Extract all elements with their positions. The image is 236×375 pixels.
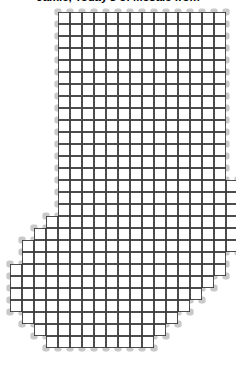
grid-cell[interactable] [94,276,105,287]
grid-cell[interactable] [214,252,225,263]
grid-cell[interactable] [106,72,117,83]
grid-cell[interactable] [70,72,81,83]
grid-cell[interactable] [154,192,165,203]
grid-cell[interactable] [154,228,165,239]
grid-cell[interactable] [130,60,141,71]
grid-cell[interactable] [106,48,117,59]
grid-cell[interactable] [34,276,45,287]
grid-cell[interactable] [154,48,165,59]
grid-cell[interactable] [22,276,33,287]
grid-cell[interactable] [58,48,69,59]
grid-cell[interactable] [70,192,81,203]
grid-cell[interactable] [58,300,69,311]
grid-cell[interactable] [106,12,117,23]
grid-cell[interactable] [190,120,201,131]
grid-cell[interactable] [46,252,57,263]
grid-cell[interactable] [178,204,189,215]
grid-cell[interactable] [118,204,129,215]
grid-cell[interactable] [202,36,213,47]
grid-cell[interactable] [106,120,117,131]
grid-cell[interactable] [214,108,225,119]
grid-cell[interactable] [106,252,117,263]
grid-cell[interactable] [34,240,45,251]
grid-cell[interactable] [94,24,105,35]
grid-cell[interactable] [202,156,213,167]
grid-cell[interactable] [70,204,81,215]
grid-cell[interactable] [82,300,93,311]
grid-cell[interactable] [214,216,225,227]
grid-cell[interactable] [94,132,105,143]
grid-cell[interactable] [142,288,153,299]
grid-cell[interactable] [178,264,189,275]
grid-cell[interactable] [142,300,153,311]
grid-cell[interactable] [202,144,213,155]
grid-cell[interactable] [178,12,189,23]
grid-cell[interactable] [190,252,201,263]
grid-cell[interactable] [190,204,201,215]
grid-cell[interactable] [106,96,117,107]
grid-cell[interactable] [166,36,177,47]
grid-cell[interactable] [214,24,225,35]
grid-cell[interactable] [82,84,93,95]
grid-cell[interactable] [214,36,225,47]
grid-cell[interactable] [82,276,93,287]
grid-cell[interactable] [166,240,177,251]
grid-cell[interactable] [190,108,201,119]
grid-cell[interactable] [214,156,225,167]
grid-cell[interactable] [226,240,236,251]
grid-cell[interactable] [214,264,225,275]
grid-cell[interactable] [70,228,81,239]
grid-cell[interactable] [106,288,117,299]
grid-cell[interactable] [166,300,177,311]
grid-cell[interactable] [82,312,93,323]
grid-cell[interactable] [58,96,69,107]
grid-cell[interactable] [154,144,165,155]
grid-cell[interactable] [178,84,189,95]
grid-cell[interactable] [166,84,177,95]
grid-cell[interactable] [82,288,93,299]
grid-cell[interactable] [178,276,189,287]
grid-cell[interactable] [190,144,201,155]
grid-cell[interactable] [154,288,165,299]
grid-cell[interactable] [154,108,165,119]
grid-cell[interactable] [106,300,117,311]
grid-cell[interactable] [190,192,201,203]
grid-cell[interactable] [142,312,153,323]
grid-cell[interactable] [118,132,129,143]
grid-cell[interactable] [142,156,153,167]
grid-cell[interactable] [94,192,105,203]
grid-cell[interactable] [46,216,57,227]
grid-cell[interactable] [130,24,141,35]
grid-cell[interactable] [154,300,165,311]
grid-cell[interactable] [130,300,141,311]
grid-cell[interactable] [22,300,33,311]
grid-cell[interactable] [142,108,153,119]
grid-cell[interactable] [130,72,141,83]
grid-cell[interactable] [202,108,213,119]
grid-cell[interactable] [166,132,177,143]
grid-cell[interactable] [10,276,21,287]
grid-cell[interactable] [166,276,177,287]
grid-cell[interactable] [70,180,81,191]
grid-cell[interactable] [70,84,81,95]
grid-cell[interactable] [226,204,236,215]
grid-cell[interactable] [226,180,236,191]
grid-cell[interactable] [166,252,177,263]
grid-cell[interactable] [166,120,177,131]
grid-cell[interactable] [178,228,189,239]
grid-cell[interactable] [154,60,165,71]
grid-cell[interactable] [166,60,177,71]
grid-cell[interactable] [118,276,129,287]
grid-cell[interactable] [190,12,201,23]
grid-cell[interactable] [106,192,117,203]
grid-cell[interactable] [190,228,201,239]
grid-cell[interactable] [58,132,69,143]
grid-cell[interactable] [130,288,141,299]
grid-cell[interactable] [106,132,117,143]
grid-cell[interactable] [118,228,129,239]
grid-cell[interactable] [46,276,57,287]
grid-cell[interactable] [82,336,93,347]
grid-cell[interactable] [154,120,165,131]
grid-cell[interactable] [70,336,81,347]
grid-cell[interactable] [82,72,93,83]
